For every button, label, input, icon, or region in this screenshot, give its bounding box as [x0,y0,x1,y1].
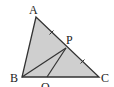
label-q: Q [41,80,50,87]
label-c: C [101,71,109,85]
label-a: A [29,3,38,17]
label-b: B [10,71,18,85]
triangle-abc-fill [22,17,99,77]
label-p: P [66,33,73,47]
triangle-diagram: A B C P Q [0,0,114,87]
